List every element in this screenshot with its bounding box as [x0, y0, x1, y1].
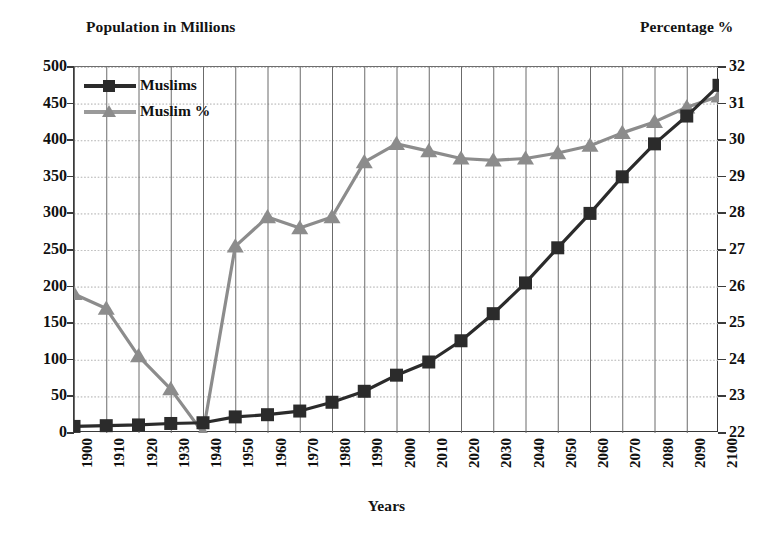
data-point-muslims [422, 356, 435, 369]
left-axis-tick-label: 0 [59, 424, 67, 440]
data-point-muslims [358, 385, 371, 398]
data-point-muslims [197, 416, 210, 429]
left-axis-tick-mark [67, 322, 74, 324]
x-axis-tick-label: 2040 [532, 438, 547, 468]
legend-item-muslims[interactable]: Muslims [84, 72, 244, 98]
data-point-muslims [584, 207, 597, 220]
left-axis-tick-label: 100 [43, 351, 67, 367]
right-axis-tick-mark [718, 359, 726, 361]
legend-triangle-marker-icon [84, 102, 136, 120]
data-point-muslims [164, 417, 177, 430]
x-axis-tick-label: 1940 [209, 438, 224, 468]
data-point-muslims [229, 410, 242, 423]
right-axis-tick-label: 23 [729, 387, 745, 403]
data-point-muslim-percent [356, 154, 373, 168]
left-axis-tick-label: 150 [43, 314, 67, 330]
left-axis-tick-mark [67, 395, 74, 397]
x-axis-tick-label: 2060 [596, 438, 611, 468]
x-axis-tick-label: 1970 [306, 438, 321, 468]
left-axis-tick-mark [67, 176, 74, 178]
left-axis-tick-mark [67, 139, 74, 141]
data-point-muslims [132, 418, 145, 431]
data-point-muslims [455, 334, 468, 347]
data-point-muslim-percent [259, 209, 276, 223]
data-point-muslims [261, 408, 274, 421]
left-axis-tick-mark [67, 66, 74, 68]
x-axis-title: Years [0, 497, 773, 515]
left-axis-tick-mark [67, 249, 74, 251]
data-point-muslims [551, 241, 564, 254]
right-axis-title: Percentage % [640, 18, 733, 36]
x-axis-tick-label: 1920 [145, 438, 160, 468]
x-axis-tick-label: 2030 [499, 438, 514, 468]
x-axis-tick-label: 2000 [403, 438, 418, 468]
x-axis-tick-label: 2080 [661, 438, 676, 468]
x-axis-tick-label: 2010 [435, 438, 450, 468]
data-point-muslims [326, 396, 339, 409]
x-axis-tick-label: 1950 [241, 438, 256, 468]
x-axis-tick-label: 2070 [628, 438, 643, 468]
right-axis-tick-label: 32 [729, 58, 745, 74]
right-axis-tick-label: 27 [729, 241, 745, 257]
left-axis-tick-label: 500 [43, 58, 67, 74]
legend: Muslims Muslim % [84, 72, 244, 124]
right-axis-tick-label: 25 [729, 314, 745, 330]
left-axis-tick-mark [67, 359, 74, 361]
left-axis-tick-label: 200 [43, 278, 67, 294]
right-axis-tick-mark [718, 322, 726, 324]
data-point-muslims [100, 419, 113, 432]
legend-item-muslim-percent[interactable]: Muslim % [84, 98, 244, 124]
x-axis-tick-label: 1990 [370, 438, 385, 468]
right-axis-tick-mark [718, 395, 726, 397]
right-axis-tick-label: 30 [729, 131, 745, 147]
data-point-muslims [680, 110, 693, 123]
x-axis-tick-label: 1910 [112, 438, 127, 468]
right-axis-tick-label: 26 [729, 278, 745, 294]
legend-square-marker-icon [84, 76, 136, 94]
data-point-muslims [519, 276, 532, 289]
right-axis-tick-mark [718, 66, 726, 68]
right-axis-tick-label: 31 [729, 95, 745, 111]
right-axis-tick-mark [718, 139, 726, 141]
data-point-muslims [616, 170, 629, 183]
left-axis-tick-label: 50 [51, 387, 67, 403]
x-axis-tick-label: 2050 [564, 438, 579, 468]
left-axis-tick-mark [67, 286, 74, 288]
left-axis-tick-mark [67, 432, 74, 434]
right-axis-tick-mark [718, 103, 726, 105]
left-axis-tick-label: 400 [43, 131, 67, 147]
data-point-muslims [713, 79, 720, 92]
x-axis-tick-label: 2020 [467, 438, 482, 468]
left-axis-tick-label: 350 [43, 168, 67, 184]
right-axis-tick-mark [718, 176, 726, 178]
data-point-muslims [487, 307, 500, 320]
left-axis-tick-mark [67, 212, 74, 214]
data-point-muslims [648, 137, 661, 150]
left-axis-tick-mark [67, 103, 74, 105]
right-axis-tick-mark [718, 286, 726, 288]
chart-figure: Population in Millions Percentage % Year… [0, 0, 773, 533]
right-axis-tick-mark [718, 249, 726, 251]
x-axis-tick-label: 2100 [725, 438, 740, 468]
x-axis-tick-label: 1960 [274, 438, 289, 468]
left-axis-title: Population in Millions [86, 18, 236, 36]
x-axis-tick-label: 1930 [177, 438, 192, 468]
x-axis-tick-label: 1900 [80, 438, 95, 468]
data-point-muslim-percent [324, 209, 341, 223]
left-axis-tick-label: 250 [43, 241, 67, 257]
right-axis-tick-label: 24 [729, 351, 745, 367]
data-point-muslim-percent [388, 136, 405, 150]
right-axis-tick-mark [718, 432, 726, 434]
data-point-muslims [390, 369, 403, 382]
x-axis-tick-label: 2090 [693, 438, 708, 468]
x-axis-tick-label: 1980 [338, 438, 353, 468]
data-point-muslims [293, 405, 306, 418]
right-axis-tick-label: 28 [729, 204, 745, 220]
data-point-muslims [74, 420, 81, 433]
right-axis-tick-label: 29 [729, 168, 745, 184]
right-axis-tick-mark [718, 212, 726, 214]
left-axis-tick-label: 300 [43, 204, 67, 220]
left-axis-tick-label: 450 [43, 95, 67, 111]
legend-label-muslims: Muslims [140, 76, 197, 94]
legend-label-muslim-percent: Muslim % [140, 102, 210, 120]
